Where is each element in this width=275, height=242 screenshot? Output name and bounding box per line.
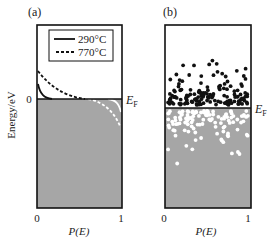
curve-290c-upper <box>38 84 52 99</box>
panel-a-label: (a) <box>28 5 41 19</box>
panel-b: (b) EF 0 1 P(E) <box>161 5 267 238</box>
panel-b-label: (b) <box>163 5 177 19</box>
x-axis-label-b: P(E) <box>195 225 217 238</box>
panel-a: (a) 290°C 770°C 0 Energy/eV EF 0 1 P(E) <box>5 5 138 238</box>
fermi-dirac-figure: (a) 290°C 770°C 0 Energy/eV EF 0 1 P(E) … <box>0 0 275 242</box>
curve-770c-upper <box>38 71 85 99</box>
x-tick-1-b: 1 <box>245 212 251 224</box>
x-axis-label-a: P(E) <box>68 225 90 238</box>
legend-770c: 770°C <box>78 46 106 58</box>
x-tick-0-b: 0 <box>161 212 167 224</box>
x-tick-0-a: 0 <box>34 212 40 224</box>
x-tick-1-a: 1 <box>118 212 124 224</box>
fermi-label-a: EF <box>125 93 138 109</box>
occupied-region <box>37 99 122 208</box>
y-zero-tick: 0 <box>26 93 32 105</box>
legend-290c: 290°C <box>78 33 106 45</box>
excited-electrons <box>166 59 249 107</box>
y-axis-label: Energy/eV <box>5 91 17 139</box>
fermi-label-b: EF <box>254 102 267 118</box>
legend: 290°C 770°C <box>49 30 113 61</box>
